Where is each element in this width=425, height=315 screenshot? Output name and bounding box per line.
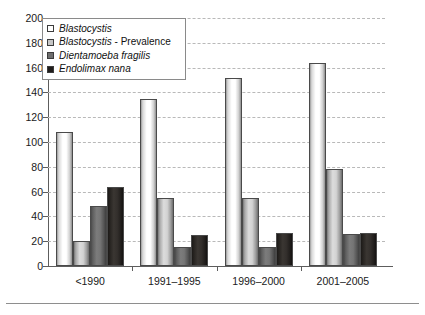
x-axis-tick-mark — [301, 266, 302, 271]
y-axis-tick-label: 100 — [3, 137, 43, 148]
y-axis-tick-label: 20 — [3, 236, 43, 247]
legend-swatch-dientamoeba-fragilis — [47, 52, 54, 59]
x-axis-tick-mark — [132, 266, 133, 271]
bar — [343, 234, 360, 266]
legend-label-blastocystis: Blastocystis — [59, 24, 112, 34]
bar — [107, 187, 124, 266]
bar — [309, 63, 326, 266]
x-axis-tick-label: 1991–1995 — [148, 275, 201, 287]
chart-legend: Blastocystis Blastocystis - Prevalence D… — [42, 18, 186, 80]
bar — [360, 233, 377, 266]
bar — [276, 233, 293, 266]
legend-swatch-endolimax-nana — [47, 66, 54, 73]
legend-item: Endolimax nana — [47, 63, 179, 77]
bar — [56, 132, 73, 266]
legend-label-endolimax-nana: Endolimax nana — [59, 64, 131, 74]
x-axis-tick-label: <1990 — [75, 275, 105, 287]
y-axis-tick-label: 60 — [3, 186, 43, 197]
bar — [259, 247, 276, 266]
bar — [157, 198, 174, 266]
bar — [140, 99, 157, 266]
legend-label-dientamoeba-fragilis: Dientamoeba fragilis — [59, 51, 150, 61]
bar — [191, 235, 208, 266]
bar — [90, 206, 107, 266]
y-axis-tick-label: 120 — [3, 112, 43, 123]
legend-item: Dientamoeba fragilis — [47, 49, 179, 63]
legend-label-roman-part: - Prevalence — [112, 36, 171, 47]
legend-label-blastocystis-prevalence: Blastocystis - Prevalence — [59, 37, 171, 47]
legend-item: Blastocystis — [47, 22, 179, 36]
x-axis-tick-label: 1996–2000 — [232, 275, 285, 287]
y-axis-tick-label: 40 — [3, 211, 43, 222]
chart-figure: 020406080100120140160180200 <19901991–19… — [0, 0, 425, 315]
y-axis-tick-label: 200 — [3, 13, 43, 24]
legend-swatch-blastocystis — [47, 25, 54, 32]
y-axis-tick-label: 0 — [3, 261, 43, 272]
legend-swatch-blastocystis-prevalence — [47, 39, 54, 46]
y-axis-tick-label: 80 — [3, 162, 43, 173]
footer-divider — [6, 303, 419, 304]
y-axis-tick-label: 160 — [3, 62, 43, 73]
x-axis-tick-mark — [217, 266, 218, 271]
bar-group — [217, 18, 301, 266]
y-axis-tick-label: 140 — [3, 87, 43, 98]
bar-group — [301, 18, 385, 266]
legend-label-italic-part: Blastocystis — [59, 36, 112, 47]
bar — [225, 78, 242, 266]
x-axis-line — [48, 266, 393, 267]
bar — [242, 198, 259, 266]
bar — [174, 247, 191, 266]
bar — [326, 169, 343, 266]
y-axis-tick-label: 180 — [3, 38, 43, 49]
x-axis-tick-label: 2001–2005 — [317, 275, 370, 287]
y-axis-tick-mark — [43, 266, 48, 267]
bar — [73, 241, 90, 266]
legend-item: Blastocystis - Prevalence — [47, 36, 179, 50]
